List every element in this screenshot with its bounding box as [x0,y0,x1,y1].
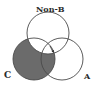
label-a: A [84,72,90,80]
label-nonb: Non-B [36,5,65,13]
label-c: C [4,71,11,80]
